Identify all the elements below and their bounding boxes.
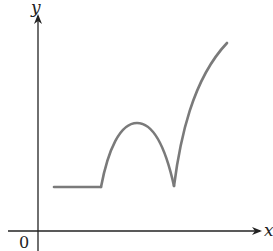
origin-label: 0 — [19, 235, 29, 251]
arch-segment — [101, 123, 174, 187]
y-axis-label: y — [31, 0, 41, 16]
x-axis-label: x — [264, 222, 273, 239]
function-graph — [0, 0, 273, 251]
rising-branch — [174, 43, 227, 186]
function-curve — [54, 43, 227, 187]
